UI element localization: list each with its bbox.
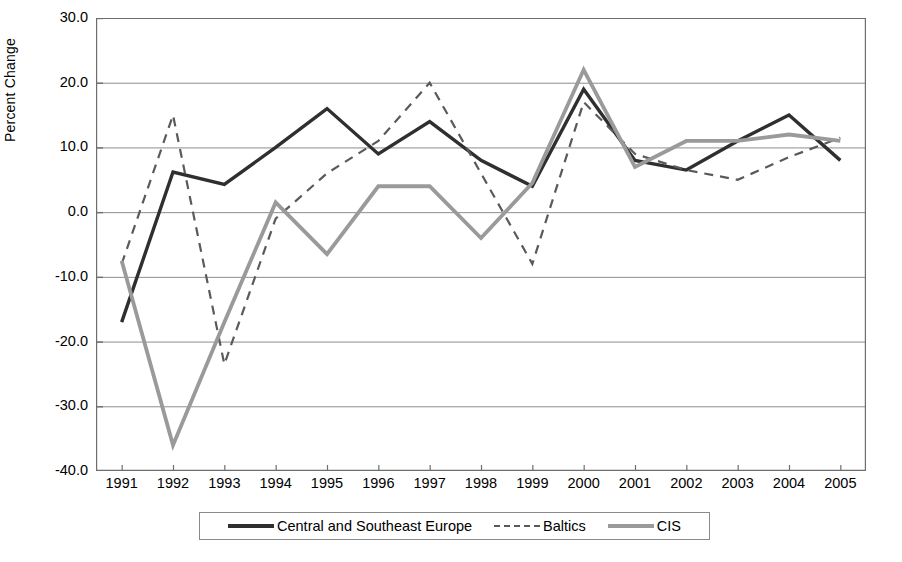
chart-legend: Central and Southeast EuropeBalticsCIS (199, 512, 710, 540)
legend-swatch-line (494, 525, 540, 527)
legend-label: Central and Southeast Europe (277, 518, 472, 534)
legend-item-central-and-southeast-europe[interactable]: Central and Southeast Europe (228, 518, 472, 534)
y-tick-label: 20.0 (30, 75, 88, 89)
y-tick-label: 0.0 (30, 204, 88, 218)
legend-item-baltics[interactable]: Baltics (494, 518, 586, 534)
legend-swatch-icon (608, 520, 654, 532)
series-line-baltics (122, 83, 841, 365)
y-axis-title: Percent Change (2, 10, 18, 170)
legend-swatch-icon (228, 520, 274, 532)
y-tick-label: 30.0 (30, 10, 88, 24)
legend-label: CIS (657, 518, 681, 534)
y-tick-label: -30.0 (30, 398, 88, 412)
legend-swatch-line (228, 524, 274, 527)
y-tick-label: -10.0 (30, 269, 88, 283)
chart-svg (96, 18, 866, 471)
plot-area (96, 18, 866, 471)
y-tick-label: -20.0 (30, 334, 88, 348)
legend-swatch-line (608, 524, 654, 528)
x-axis-tick-labels: 1991199219931994199519961997199819992000… (0, 475, 902, 499)
series-line-cis (122, 70, 841, 445)
legend-swatch-icon (494, 520, 540, 532)
y-axis-tick-labels: 30.020.010.00.0-10.0-20.0-30.0-40.0 (26, 0, 88, 500)
y-tick-label: 10.0 (30, 139, 88, 153)
chart-container: Percent Change 30.020.010.00.0-10.0-20.0… (0, 0, 902, 562)
legend-label: Baltics (543, 518, 586, 534)
series-line-central-and-southeast-europe (122, 89, 841, 322)
legend-item-cis[interactable]: CIS (608, 518, 681, 534)
x-tick-label: 2005 (810, 475, 870, 491)
